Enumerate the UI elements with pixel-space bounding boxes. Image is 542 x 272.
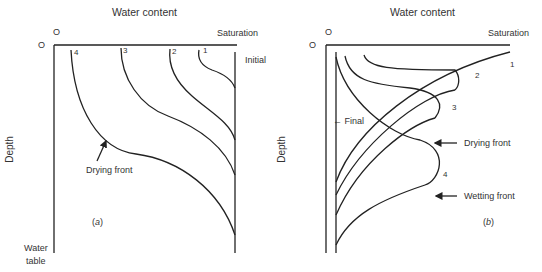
panel-a-curve-1 — [199, 50, 235, 88]
panel-b-curve-4 — [336, 185, 425, 245]
panel-a-saturation: Saturation — [217, 28, 258, 38]
panel-a-initial: Initial — [245, 55, 266, 65]
panel-b-curve-label-4: 4 — [443, 170, 447, 179]
panel-a-depth-label: Depth — [4, 136, 15, 163]
panel-a-curve-2 — [170, 49, 235, 140]
panel-b-tag: (b) — [483, 217, 494, 227]
panel-b-curve-label-2: 2 — [475, 71, 479, 80]
panel-b-final: ← Final — [333, 116, 364, 126]
panel-b-drying-front: Drying front — [464, 138, 511, 148]
panel-a-water-table-2: table — [26, 256, 46, 266]
panel-b-origin-y: O — [309, 40, 316, 50]
panel-a-origin-y: O — [38, 40, 45, 50]
panel-a-curve-label-3: 3 — [123, 46, 127, 55]
panel-b-curve-label-1: 1 — [510, 60, 514, 69]
panel-a-tag: (a) — [92, 217, 103, 227]
panel-a-curve-label-1: 1 — [203, 46, 207, 55]
panel-b-depth-label: Depth — [276, 136, 287, 163]
diagram-canvas — [0, 0, 542, 272]
panel-b-origin-x: O — [325, 27, 332, 37]
panel-b-wetting-front: Wetting front — [464, 191, 515, 201]
panel-a-curve-label-4: 4 — [74, 48, 78, 57]
panel-b-title: Water content — [390, 6, 455, 18]
panel-a-drying-front: Drying front — [86, 165, 133, 175]
panel-a-origin-x: O — [53, 27, 60, 37]
panel-a-water-table-1: Water — [24, 243, 48, 253]
panel-b-curve-label-3: 3 — [452, 103, 456, 112]
panel-a-curve-3 — [121, 48, 235, 175]
panel-a-title: Water content — [112, 6, 177, 18]
panel-a-curve-4 — [71, 50, 235, 235]
panel-b-curve-2-top — [364, 55, 459, 90]
panel-b-saturation: Saturation — [488, 28, 529, 38]
panel-a-curve-label-2: 2 — [172, 47, 176, 56]
panel-a-drying-arrow — [97, 141, 106, 161]
